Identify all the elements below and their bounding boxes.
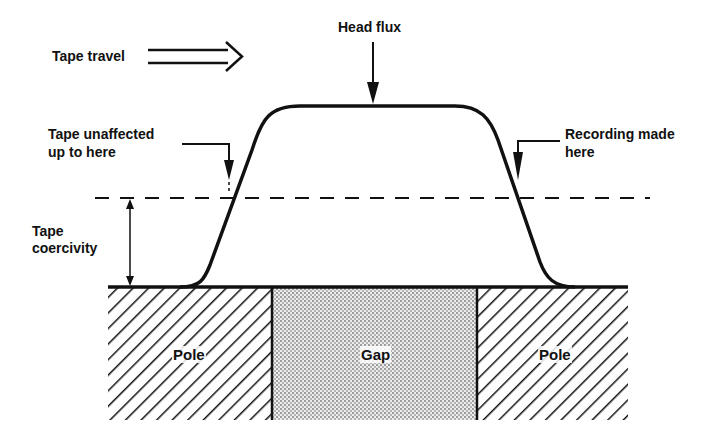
right-pole-label: Pole: [538, 346, 572, 363]
head-flux-label: Head flux: [338, 19, 401, 36]
recording-made-label-line2: here: [565, 144, 595, 161]
recording-made-label-line1: Recording made: [565, 126, 675, 143]
flux-curve: [180, 106, 575, 287]
tape-travel-arrow-icon: [148, 42, 242, 71]
left-pole-label: Pole: [172, 346, 206, 363]
tape-coercivity-label-line1: Tape: [32, 223, 64, 240]
coercivity-arrow-icon: [126, 199, 134, 286]
tape-unaffected-leader-icon: [182, 144, 234, 192]
head-flux-diagram: [0, 0, 723, 443]
tape-travel-label: Tape travel: [52, 48, 125, 65]
tape-unaffected-label-line1: Tape unaffected: [48, 126, 154, 143]
head-flux-arrow-icon: [367, 42, 379, 104]
gap-label: Gap: [360, 346, 391, 363]
tape-coercivity-label-line2: coercivity: [32, 240, 97, 257]
tape-unaffected-label-line2: up to here: [48, 144, 116, 161]
recording-made-leader-icon: [513, 141, 560, 180]
